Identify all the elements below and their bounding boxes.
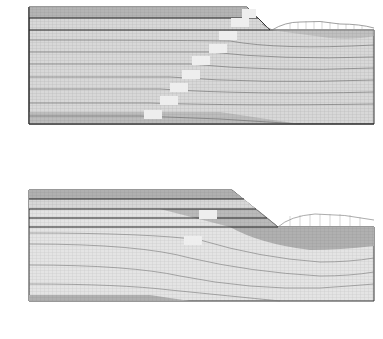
slope-body-a bbox=[29, 7, 374, 124]
panel-a bbox=[29, 7, 374, 124]
panel-b bbox=[29, 190, 374, 301]
figure-canvas bbox=[0, 0, 383, 339]
